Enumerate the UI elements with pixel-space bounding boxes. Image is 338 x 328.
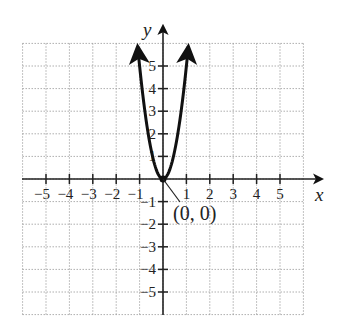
y-axis-label: y bbox=[141, 19, 152, 40]
coordinate-graph: −5−4−3−2−11234554321−1−2−3−4−5 (0, 0) x … bbox=[0, 0, 338, 328]
x-tick-label: −3 bbox=[81, 186, 97, 202]
y-tick-label: 4 bbox=[149, 81, 157, 97]
y-tick-label: −5 bbox=[140, 284, 156, 300]
x-tick-label: 1 bbox=[183, 186, 191, 202]
x-tick-label: −4 bbox=[57, 186, 73, 202]
vertex-leader-line bbox=[163, 179, 180, 202]
x-tick-label: 2 bbox=[206, 186, 214, 202]
y-tick-label: −2 bbox=[140, 216, 156, 232]
x-tick-label: 5 bbox=[276, 186, 284, 202]
y-tick-label: 5 bbox=[149, 58, 157, 74]
x-tick-label: 3 bbox=[229, 186, 237, 202]
y-tick-label: −3 bbox=[140, 239, 156, 255]
x-tick-label: 4 bbox=[253, 186, 261, 202]
x-tick-label: −5 bbox=[34, 186, 50, 202]
y-tick-label: 3 bbox=[149, 103, 157, 119]
axes bbox=[22, 26, 322, 315]
x-axis-label: x bbox=[314, 184, 324, 205]
y-tick-label: −4 bbox=[140, 261, 156, 277]
x-tick-label: −2 bbox=[104, 186, 120, 202]
vertex-label: (0, 0) bbox=[173, 202, 216, 225]
y-tick-label: −1 bbox=[140, 194, 156, 210]
